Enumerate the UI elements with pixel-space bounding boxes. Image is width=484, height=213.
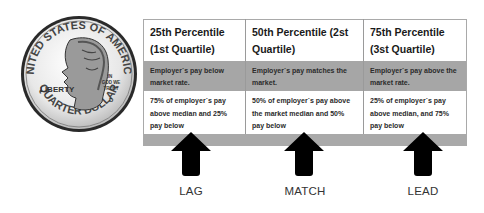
svg-text:LIBERTY: LIBERTY bbox=[40, 85, 75, 94]
column-25th-percentile: 25th Percentile (1st Quartile) Employer`… bbox=[143, 19, 245, 134]
column-detail: 75% of employer`s pay above median and 2… bbox=[144, 91, 245, 134]
column-75th-percentile: 75th Percentile (3st Quartile) Employer`… bbox=[363, 19, 467, 134]
strategy-label-match: MATCH bbox=[284, 185, 325, 197]
column-description: Employer`s pay matches the market. bbox=[246, 61, 363, 91]
up-arrow-icon bbox=[402, 131, 444, 177]
percentile-table: 25th Percentile (1st Quartile) Employer`… bbox=[143, 19, 467, 134]
up-arrow-icon bbox=[283, 131, 325, 177]
column-detail: 25% of employer`s pay above median, and … bbox=[364, 91, 466, 134]
strategy-label-lead: LEAD bbox=[408, 185, 439, 197]
column-description: Employer`s pay below market rate. bbox=[144, 61, 245, 91]
svg-text:D: D bbox=[109, 97, 114, 103]
up-arrow-icon bbox=[170, 131, 212, 177]
column-title: 75th Percentile (3st Quartile) bbox=[364, 19, 466, 61]
svg-text:TRUST: TRUST bbox=[104, 86, 119, 91]
column-description: Employer`s pay above the market rate. bbox=[364, 61, 466, 91]
column-detail: 50% of employer`s pay above the market m… bbox=[246, 91, 363, 134]
svg-text:GOD WE: GOD WE bbox=[102, 80, 121, 85]
column-title: 50th Percentile (2st Quartile) bbox=[246, 19, 363, 61]
strategy-label-lag: LAG bbox=[179, 185, 203, 197]
quarter-coin-image: UNITED STATES OF AMERICA QUARTER DOLLAR … bbox=[18, 10, 140, 138]
svg-text:IN: IN bbox=[108, 74, 113, 79]
column-title: 25th Percentile (1st Quartile) bbox=[144, 19, 245, 61]
column-50th-percentile: 50th Percentile (2st Quartile) Employer`… bbox=[245, 19, 363, 134]
